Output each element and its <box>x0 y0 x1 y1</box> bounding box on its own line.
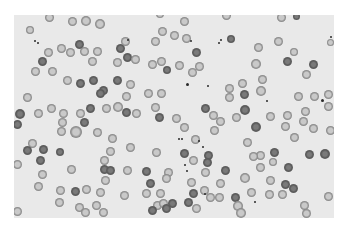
red-blood-cell <box>81 16 91 26</box>
dark-red-blood-cell <box>106 166 115 175</box>
dark-red-blood-cell <box>180 149 189 158</box>
red-blood-cell <box>57 44 66 53</box>
red-blood-cell <box>88 57 97 66</box>
red-blood-cell <box>249 152 258 161</box>
dark-red-blood-cell <box>96 89 105 98</box>
dark-red-blood-cell <box>309 60 318 69</box>
platelet-dot <box>330 36 332 38</box>
red-blood-cell <box>290 48 298 56</box>
red-blood-cell <box>56 186 65 195</box>
red-blood-cell <box>59 109 68 118</box>
red-blood-cell <box>170 31 179 40</box>
dark-red-blood-cell <box>71 187 80 196</box>
red-blood-cell <box>258 75 267 84</box>
red-blood-cell <box>206 193 215 202</box>
platelet-dot <box>321 99 324 102</box>
red-blood-cell <box>232 113 241 122</box>
red-blood-cell <box>76 109 85 118</box>
red-blood-cell <box>180 17 189 26</box>
red-blood-cell <box>251 59 261 69</box>
dark-red-blood-cell <box>155 113 164 122</box>
platelet-dot <box>184 164 186 166</box>
red-blood-cell <box>55 198 64 207</box>
red-blood-cell <box>266 176 275 185</box>
dark-red-blood-cell <box>80 118 89 127</box>
red-blood-cell <box>92 201 101 210</box>
dark-red-blood-cell <box>192 48 201 57</box>
dark-red-blood-cell <box>86 104 95 113</box>
red-blood-cell <box>162 174 171 183</box>
red-blood-cell <box>216 117 225 126</box>
red-blood-cell <box>324 192 333 201</box>
red-blood-cell <box>66 48 75 57</box>
red-blood-cell <box>96 188 105 197</box>
platelet-dot <box>220 39 222 41</box>
red-blood-cell <box>254 43 263 52</box>
platelet-dot <box>266 100 268 102</box>
red-blood-cell <box>156 15 164 18</box>
red-blood-cell <box>189 156 198 165</box>
platelet-dot <box>254 201 256 203</box>
red-blood-cell <box>144 89 153 98</box>
red-blood-cell <box>122 92 131 101</box>
red-blood-cell <box>58 118 67 127</box>
red-blood-cell <box>256 163 265 172</box>
dark-red-blood-cell <box>56 148 64 156</box>
red-blood-cell <box>180 123 189 132</box>
platelet-dot <box>178 138 180 140</box>
dark-red-blood-cell <box>39 145 48 154</box>
red-blood-cell <box>278 190 287 199</box>
red-blood-cell <box>68 17 77 26</box>
red-blood-cell <box>187 178 196 187</box>
platelet-dot <box>181 138 183 140</box>
red-blood-cell <box>192 204 201 213</box>
red-blood-cell <box>156 189 165 198</box>
dark-red-blood-cell <box>284 163 293 172</box>
red-blood-cell <box>225 84 234 93</box>
red-blood-cell <box>95 19 105 29</box>
red-blood-cell <box>240 173 250 183</box>
red-blood-cell <box>48 67 57 76</box>
red-blood-cell <box>93 128 102 137</box>
platelet-dot <box>207 85 209 87</box>
red-blood-cell <box>70 126 82 138</box>
dark-red-blood-cell <box>184 198 193 207</box>
red-blood-cell <box>152 148 161 157</box>
red-blood-cell <box>274 37 283 46</box>
red-blood-cell <box>45 15 54 22</box>
red-blood-cell <box>151 103 160 112</box>
red-blood-cell <box>277 15 286 22</box>
red-blood-cell <box>57 127 66 136</box>
platelet-dot <box>218 42 220 44</box>
platelet-dot <box>127 39 129 41</box>
red-blood-cell <box>131 55 140 64</box>
red-blood-cell <box>23 93 32 102</box>
red-blood-cell <box>294 92 303 101</box>
red-blood-cell <box>26 26 34 34</box>
red-blood-cell <box>222 15 231 20</box>
dark-red-blood-cell <box>203 158 212 167</box>
dark-red-blood-cell <box>38 57 47 66</box>
red-blood-cell <box>191 135 200 144</box>
red-blood-cell <box>82 185 91 194</box>
red-blood-cell <box>113 58 122 67</box>
platelet-dot <box>37 42 39 44</box>
dark-red-blood-cell <box>251 122 261 132</box>
dark-red-blood-cell <box>76 79 85 88</box>
red-blood-cell <box>151 37 160 46</box>
red-blood-cell <box>14 160 22 169</box>
red-blood-cell <box>290 133 299 142</box>
red-blood-cell <box>126 80 135 89</box>
dark-red-blood-cell <box>320 149 330 159</box>
dark-red-blood-cell <box>146 179 155 188</box>
red-blood-cell <box>81 208 90 217</box>
platelet-dot <box>204 193 206 195</box>
dark-red-blood-cell <box>189 189 198 198</box>
dark-red-blood-cell <box>122 108 131 117</box>
red-blood-cell <box>201 168 210 177</box>
red-blood-cell <box>108 134 117 143</box>
red-blood-cell <box>266 112 275 121</box>
red-blood-cell <box>210 126 219 135</box>
red-blood-cell <box>158 27 167 36</box>
red-blood-cell <box>93 47 102 56</box>
